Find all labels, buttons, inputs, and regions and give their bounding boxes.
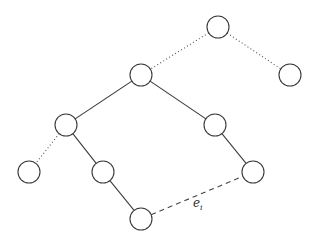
edge-A-C-dotted (227, 33, 281, 69)
tree-node-I (130, 208, 152, 230)
tree-node-B (130, 64, 152, 86)
edge-D-F-dotted (36, 134, 59, 164)
tree-node-F (18, 161, 40, 183)
edge-D-G-solid (73, 134, 96, 164)
tree-node-C (279, 64, 301, 86)
edge-B-E-solid (150, 81, 206, 119)
tree-node-E (204, 114, 226, 136)
tree-diagram: ei (0, 0, 317, 243)
tree-node-G (92, 161, 114, 183)
nodes-layer (18, 16, 301, 230)
edge-E-H-solid (222, 134, 246, 164)
edge-G-I-solid (110, 181, 134, 211)
labels-layer: ei (193, 196, 203, 212)
edge-A-B-dotted (150, 33, 208, 69)
tree-node-D (55, 114, 77, 136)
edge-B-D-solid (75, 81, 132, 119)
tree-node-A (207, 16, 229, 38)
edge-label: ei (193, 196, 203, 212)
tree-node-H (242, 161, 264, 183)
